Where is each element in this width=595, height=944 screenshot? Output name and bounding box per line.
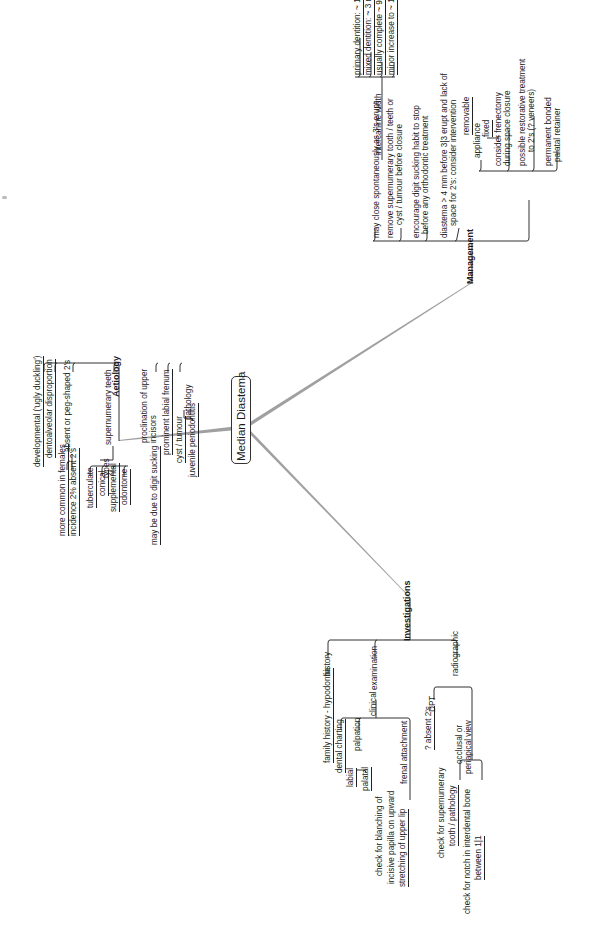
investigations-clinical[interactable]: clinical bbox=[369, 691, 378, 716]
investigations-check-notch-line2[interactable]: between 1|1 bbox=[474, 836, 485, 880]
investigations-palatal[interactable]: palatal bbox=[361, 767, 372, 791]
aetiology-odontome[interactable]: odontome bbox=[120, 469, 131, 505]
management-remove-supernumerary-line1[interactable]: remove supernumerary tooth / teeth or bbox=[386, 98, 395, 238]
aetiology-tuberculate[interactable]: tuberculate bbox=[86, 467, 97, 508]
investigations-radiographic[interactable]: radiographic bbox=[451, 631, 460, 676]
investigations-blanching-line3[interactable]: stretching of upper lip bbox=[398, 809, 409, 887]
branch-investigations[interactable]: Investigations bbox=[403, 580, 412, 641]
investigations-blanching-line2[interactable]: incisive papilla on upward bbox=[387, 791, 396, 884]
management-remove-supernumerary-line2[interactable]: cyst / tumour before closure bbox=[395, 124, 404, 225]
investigations-occlusal-line1[interactable]: occlusal or bbox=[455, 725, 464, 764]
management-frenectomy-line1[interactable]: consider frenectomy bbox=[494, 92, 503, 166]
aetiology-juvenile-periodontitis[interactable]: juvenile periodontitis bbox=[188, 403, 199, 477]
management-retainer-line1[interactable]: permanent bonded bbox=[544, 97, 553, 166]
aetiology-conical[interactable]: conical bbox=[98, 471, 109, 497]
management-appliance[interactable]: appliance bbox=[473, 123, 482, 158]
aetiology-cyst-tumour[interactable]: cyst / tumour bbox=[175, 416, 186, 463]
investigations-examination[interactable]: examination bbox=[370, 646, 379, 690]
management-mixed-dentition[interactable]: mixed dentition: ~ 3 mm increase bbox=[364, 0, 375, 75]
management-digit-habit-line2[interactable]: before any orthodontic treatment bbox=[421, 116, 430, 234]
investigations-check-notch-line1[interactable]: check for notch in interdental bone bbox=[463, 789, 472, 914]
management-primary-dentition[interactable]: primary dentition: ~ 1-2 mm increase bbox=[353, 0, 364, 75]
mind-map-canvas: Median Diastema Aetiology Management Inv… bbox=[0, 0, 595, 944]
branch-management[interactable]: Management bbox=[466, 229, 475, 284]
aetiology-incidence[interactable]: incidence 2% absent 2's bbox=[69, 448, 80, 536]
investigations-dental-charting[interactable]: dental charting bbox=[335, 719, 346, 773]
investigations-absent-2s[interactable]: ? absent 2's bbox=[424, 706, 435, 750]
management-intercanine-width[interactable]: intercanine width bbox=[374, 94, 383, 155]
central-topic-label: Median Diastema bbox=[234, 372, 248, 461]
aetiology-more-common-females[interactable]: more common in females bbox=[58, 444, 69, 536]
aetiology-supernumerary[interactable]: supernumerary teeth bbox=[104, 369, 113, 445]
investigations-family-history[interactable]: family history - hypodontia bbox=[323, 668, 334, 763]
management-restorative-line1[interactable]: possible restorative treatment bbox=[518, 59, 527, 166]
management-fixed[interactable]: fixed bbox=[482, 120, 493, 137]
management-restorative-line2[interactable]: to 2's (? veneers) bbox=[527, 89, 536, 152]
management-minor-increase[interactable]: minor increase to ~ 13 years bbox=[387, 0, 398, 75]
aetiology-prominent-frenum[interactable]: prominent labial frenum bbox=[162, 369, 173, 455]
branch-aetiology[interactable]: Aetiology bbox=[112, 356, 121, 397]
aetiology-proclination-line2[interactable]: incisors bbox=[149, 415, 158, 443]
investigations-blanching-line1[interactable]: check for blanching of bbox=[375, 796, 384, 876]
management-removable[interactable]: removable bbox=[462, 97, 473, 135]
investigations-check-supernumerary-line2[interactable]: tooth / pathology bbox=[448, 785, 459, 846]
management-digit-habit-line1[interactable]: encourage digit sucking habit to stop bbox=[412, 105, 421, 238]
management-diastema-intervention-line1[interactable]: diastema > 4 mm before 3|3 erupt and lac… bbox=[440, 73, 449, 238]
aetiology-developmental[interactable]: developmental ('ugly duckling') bbox=[33, 356, 44, 467]
aetiology-proclination-line1[interactable]: proclination of upper bbox=[140, 369, 149, 443]
investigations-check-supernumerary-line1[interactable]: check for supernumerary bbox=[437, 767, 446, 858]
management-diastema-intervention-line2[interactable]: space for 2's: consider intervention bbox=[449, 100, 458, 226]
scan-speck bbox=[2, 196, 7, 199]
management-usually-complete[interactable]: usually complete ~ 9 years bbox=[375, 0, 386, 75]
aetiology-dentoalveolar[interactable]: dentoalveolar disproportion bbox=[45, 359, 56, 458]
investigations-palpation[interactable]: palpation bbox=[353, 718, 362, 751]
investigations-occlusal-line2[interactable]: periapical view bbox=[464, 720, 473, 774]
aetiology-absent-peg[interactable]: absent or peg-shaped 2's bbox=[63, 360, 72, 452]
investigations-labial[interactable]: labial bbox=[346, 768, 357, 787]
aetiology-supplemental[interactable]: supplemental bbox=[109, 463, 120, 512]
aetiology-digit-sucking[interactable]: may be due to digit sucking bbox=[150, 446, 161, 545]
management-frenectomy-line2[interactable]: during space closure bbox=[503, 90, 512, 166]
investigations-frenal-attachment[interactable]: frenal attachment bbox=[400, 721, 409, 784]
management-retainer-line2[interactable]: palatal retainer bbox=[553, 108, 562, 162]
central-topic-node[interactable]: Median Diastema bbox=[231, 376, 251, 464]
